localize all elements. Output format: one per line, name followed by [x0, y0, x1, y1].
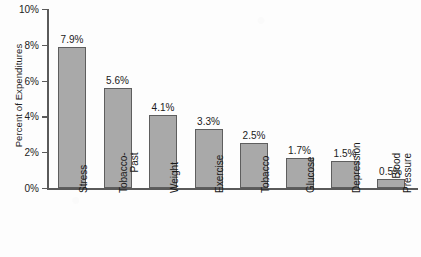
plot-area: 10%8%6%4%2%0% 7.9%5.6%4.1%3.3%2.5%1.7%1.… [47, 9, 418, 188]
x-category-label-text: Depression [351, 142, 362, 193]
y-tick-mark [42, 81, 47, 82]
bar-value-label: 7.9% [61, 34, 84, 45]
bar-value-label: 1.7% [288, 145, 311, 156]
x-category-label-text: Exercise [214, 155, 225, 193]
x-category-label-line: Tobacco- [118, 152, 129, 193]
x-category-label-line: Stress [78, 165, 89, 193]
y-tick-mark [42, 45, 47, 46]
x-category-label-line: Past [129, 152, 140, 193]
x-category-label-line: Depression [351, 142, 362, 193]
x-category-label-line: Tobacco [260, 156, 271, 193]
y-tick-label: 2% [25, 147, 39, 158]
y-tick-mark [42, 116, 47, 117]
x-category-label-text: Weight [169, 162, 180, 193]
x-category-label-line: Pressure [402, 153, 413, 193]
x-category-label-text: Glucose [305, 156, 316, 193]
bar-value-label: 3.3% [197, 116, 220, 127]
x-category-label-line: Blood [391, 153, 402, 193]
bar-value-label: 5.6% [106, 75, 129, 86]
x-axis-line [47, 188, 418, 190]
y-tick-label: 8% [25, 39, 39, 50]
y-tick-mark [42, 152, 47, 153]
y-tick-label: 4% [25, 111, 39, 122]
y-tick-mark [42, 9, 47, 10]
x-category-label-text: BloodPressure [391, 153, 413, 193]
x-category-label-line: Exercise [214, 155, 225, 193]
x-category-label-text: Tobacco-Past [118, 152, 140, 193]
y-tick-mark [42, 188, 47, 189]
bar-chart-screenshot: Percent of Expenditures 10%8%6%4%2%0% 7.… [0, 0, 421, 257]
x-category-label-text: Tobacco [260, 156, 271, 193]
x-category-label-line: Weight [169, 162, 180, 193]
y-tick-label: 0% [25, 183, 39, 194]
x-category-label-text: Stress [78, 165, 89, 193]
y-axis-line [47, 9, 49, 188]
y-axis-title: Percent of Expenditures [13, 16, 24, 176]
bar-value-label: 2.5% [243, 130, 266, 141]
x-category-label-line: Glucose [305, 156, 316, 193]
y-tick-label: 6% [25, 75, 39, 86]
y-tick-label: 10% [19, 4, 39, 15]
bar-value-label: 4.1% [152, 102, 175, 113]
